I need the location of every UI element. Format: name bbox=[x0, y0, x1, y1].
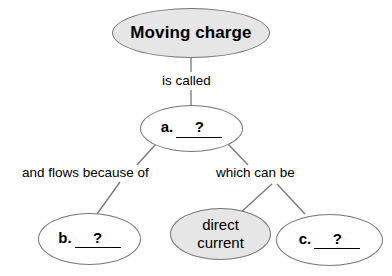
connector-right-label-to-c bbox=[277, 184, 305, 214]
node-b-blank[interactable]: ? bbox=[75, 230, 121, 249]
node-c[interactable]: c. ? bbox=[276, 214, 383, 266]
node-b[interactable]: b. ? bbox=[38, 213, 141, 265]
node-b-letter: b. bbox=[58, 230, 71, 247]
node-moving-charge[interactable]: Moving charge bbox=[112, 8, 270, 58]
node-direct-current-line1: direct bbox=[202, 216, 239, 233]
node-c-content: c. ? bbox=[299, 231, 361, 250]
node-a-blank[interactable]: ? bbox=[176, 119, 222, 138]
node-direct-current-line2: current bbox=[197, 234, 244, 251]
connector-right-label-to-direct-current bbox=[240, 184, 272, 213]
connector-a-to-right-label bbox=[228, 144, 248, 165]
node-a-letter: a. bbox=[161, 119, 174, 136]
node-c-blank[interactable]: ? bbox=[314, 231, 360, 250]
node-a[interactable]: a. ? bbox=[140, 105, 243, 152]
edge-label-is-called: is called bbox=[160, 73, 213, 88]
connector-a-to-left-label bbox=[137, 144, 156, 165]
node-direct-current-label: direct current bbox=[197, 216, 244, 253]
concept-map-canvas: Moving charge is called a. ? and flows b… bbox=[0, 0, 392, 276]
node-moving-charge-label: Moving charge bbox=[130, 23, 251, 42]
node-direct-current[interactable]: direct current bbox=[170, 208, 271, 260]
edge-label-and-flows-because-of: and flows because of bbox=[20, 165, 151, 180]
node-a-content: a. ? bbox=[161, 119, 223, 138]
connector-left-label-to-b bbox=[97, 182, 120, 214]
edge-label-which-can-be: which can be bbox=[214, 165, 297, 180]
node-b-content: b. ? bbox=[58, 230, 120, 249]
node-c-letter: c. bbox=[299, 231, 312, 248]
